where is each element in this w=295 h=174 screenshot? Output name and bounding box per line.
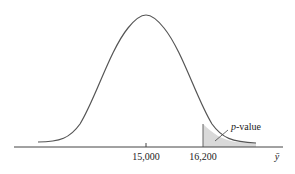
tick-label-observed: 16,200: [189, 151, 217, 162]
tick-label-mean: 15,000: [132, 151, 160, 162]
normal-distribution-diagram: p-value 15,000 16,200 ȳ: [0, 0, 295, 174]
p-value-label: p-value: [230, 121, 262, 132]
normal-curve: [38, 15, 256, 143]
axis-variable-label: ȳ: [274, 151, 280, 162]
